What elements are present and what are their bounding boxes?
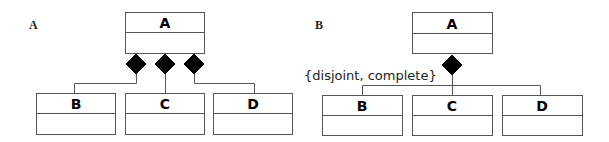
class-box-child-b: B: [37, 94, 116, 135]
class-box-parent: A: [413, 13, 493, 54]
class-name: A: [160, 15, 171, 31]
class-name: C: [447, 98, 457, 114]
connector-bus: [363, 86, 541, 96]
connector-d: [195, 74, 255, 93]
class-name: D: [536, 98, 548, 114]
panel-label-a: A: [29, 18, 38, 32]
class-box-child-d: D: [214, 94, 293, 135]
panel-label-b: B: [315, 18, 323, 32]
composition-diamond-icon: [126, 54, 146, 74]
constraint-label: {disjoint, complete}: [304, 68, 437, 83]
composition-diamond-icon: [184, 54, 204, 74]
class-box-child-c: C: [413, 96, 493, 136]
connector-b: [75, 74, 137, 93]
class-name: C: [160, 96, 170, 112]
panel-a: A A B C D: [29, 13, 293, 135]
class-box-child-b: B: [323, 96, 403, 136]
class-box-child-c: C: [126, 94, 205, 135]
composition-diamond-icon: [155, 54, 175, 74]
class-name: B: [357, 98, 368, 114]
class-name: A: [447, 16, 458, 32]
composition-diamond-icon: [442, 55, 462, 75]
class-box-child-d: D: [503, 96, 583, 136]
class-name: B: [71, 96, 82, 112]
class-name: D: [247, 96, 259, 112]
class-box-parent: A: [126, 13, 205, 54]
diagram-canvas: A A B C D B: [0, 0, 609, 142]
panel-b: B A {disjoint, complete} B C D: [304, 13, 583, 136]
